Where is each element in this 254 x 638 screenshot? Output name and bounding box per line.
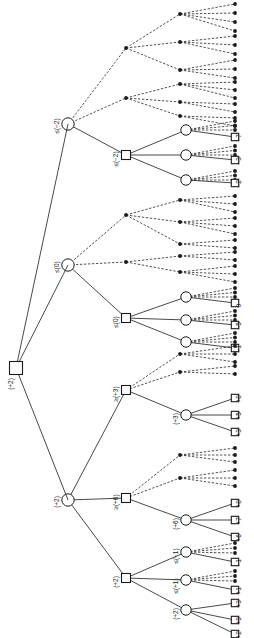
game-tree-svg: −7−3−2≤(−2)≤(−2)0−5−1≤(0)≤(0)+8+5+3≥(+3)… [0, 0, 254, 638]
min-node-circle[interactable] [181, 175, 191, 185]
pruned-leaf-edge [186, 571, 235, 580]
a-prune2-sub-edge [126, 84, 180, 98]
a-prune2-leaf [233, 88, 237, 92]
root-edge-b [16, 265, 68, 368]
a-prune2-leaf [233, 110, 237, 114]
max-node-square[interactable] [122, 386, 131, 395]
min-node-circle[interactable] [181, 292, 191, 302]
root-edge-a [16, 124, 68, 368]
b-prune1-leaf-edge [180, 240, 235, 244]
pruned-leaf [233, 309, 237, 313]
l2a-child-edge [126, 155, 186, 180]
node-label-l3d: ≤(+1) [172, 578, 180, 593]
b-prune2-leaf [233, 264, 237, 268]
a-prune1-leaf [233, 11, 237, 15]
node-label-l2c: ≥(+3) [112, 386, 120, 401]
a-prune1-leaf [233, 52, 237, 56]
leaf-edge [186, 155, 235, 160]
min-node-circle[interactable] [181, 150, 191, 160]
pruned-leaf [233, 579, 237, 583]
b-prune1-leaf-edge [180, 196, 235, 200]
a-prune2-edge [68, 98, 126, 124]
l2c-pruned-leaf-edge [180, 366, 235, 372]
pruned-leaf-edge [186, 176, 235, 181]
pruned-leaf-edge [186, 293, 235, 298]
b-prune2-edge [68, 262, 126, 265]
pruned-leaf-edge [186, 171, 235, 180]
max-node-square[interactable] [122, 314, 131, 323]
pruned-leaf-edge [186, 121, 235, 130]
min-node-circle[interactable] [181, 125, 191, 135]
min-node-circle[interactable] [181, 337, 191, 347]
b-prune1-edge [68, 215, 126, 265]
a-prune1-sub-edge [126, 48, 180, 70]
node-label-root: (+2) [7, 378, 15, 390]
min-node-circle[interactable] [181, 575, 191, 585]
pruned-leaf [233, 124, 237, 128]
max-node-square[interactable] [122, 574, 131, 583]
l2c-pruned-edge [126, 372, 180, 390]
pruned-leaf [233, 314, 237, 318]
pruned-leaf [233, 551, 237, 555]
b-prune1-leaf [233, 246, 237, 250]
l2d-pruned-leaf [233, 484, 237, 488]
pruned-leaf-edge [186, 552, 235, 553]
leaf-edge [186, 610, 235, 634]
min-node-circle[interactable] [181, 410, 191, 420]
node-label-l1a: ≤(−2) [53, 118, 61, 133]
leaf-value: +7 [235, 517, 242, 525]
b-prune1-leaf-edge [180, 200, 235, 212]
a-prune1-leaf [233, 67, 237, 71]
max-node-square[interactable] [122, 151, 131, 160]
leaf-value: +1 [235, 587, 242, 595]
leaf-value: +8 [235, 395, 242, 403]
node-label-l2e: (+2) [112, 576, 120, 588]
b-prune1-leaf-edge [180, 222, 235, 234]
a-prune2-leaf-edge [180, 82, 235, 84]
leaf-value: +2 [235, 631, 242, 638]
figure-canvas: −7−3−2≤(−2)≤(−2)0−5−1≤(0)≤(0)+8+5+3≥(+3)… [0, 0, 254, 638]
a-prune1-leaf-edge [180, 14, 235, 31]
root-node-square[interactable] [10, 362, 23, 375]
b-prune2-leaf-edge [180, 256, 235, 260]
node-label-l2b: ≤(0) [112, 316, 120, 327]
l2d-pruned-leaf [233, 460, 237, 464]
l2b-child-edge [126, 318, 186, 342]
a-prune2-leaf-edge [180, 84, 235, 98]
a-prune1-leaf-edge [180, 60, 235, 70]
max-node-square[interactable] [122, 494, 131, 503]
l2c-child-edge [126, 390, 186, 415]
pruned-leaf-edge [186, 338, 235, 343]
min-node-circle[interactable] [181, 315, 191, 325]
leaf-edge [186, 398, 235, 415]
leaf-edge [186, 520, 235, 537]
a-prune1-leaf [233, 29, 237, 33]
b-prune1-sub-edge [126, 215, 180, 244]
b-prune2-sub-edge [126, 256, 180, 262]
min-node-circle[interactable] [181, 515, 191, 525]
leaf-value: −7 [235, 134, 242, 142]
a-prune1-leaf-edge [180, 13, 235, 14]
leaf-value: +9 [235, 617, 242, 625]
leaf-value: −5 [235, 322, 242, 330]
min-node-circle[interactable] [181, 547, 191, 557]
b-prune2-leaf [233, 272, 237, 276]
l2d-pruned-leaf [233, 453, 237, 457]
pruned-leaf [233, 291, 237, 295]
min-node-circle[interactable] [181, 605, 191, 615]
pruned-leaf-edge [186, 543, 235, 552]
pruned-leaf-edge [186, 316, 235, 321]
a-prune1-leaf-edge [180, 42, 235, 54]
leaf-edge [186, 180, 235, 183]
a-prune1-leaf-edge [180, 14, 235, 22]
node-label-l2a: ≤(−2) [112, 151, 120, 166]
leaf-edge [186, 610, 235, 620]
leaf-edge [186, 503, 235, 520]
b-prune2-sub-edge [126, 262, 180, 272]
b-prune1-leaf [233, 202, 237, 206]
b-prune1-leaf-edge [180, 218, 235, 222]
a-prune2-leaf-edge [180, 116, 235, 126]
leaf-value: +3 [235, 600, 242, 608]
pruned-leaf [233, 331, 237, 335]
node-label-l1b: ≤(0) [53, 261, 61, 272]
